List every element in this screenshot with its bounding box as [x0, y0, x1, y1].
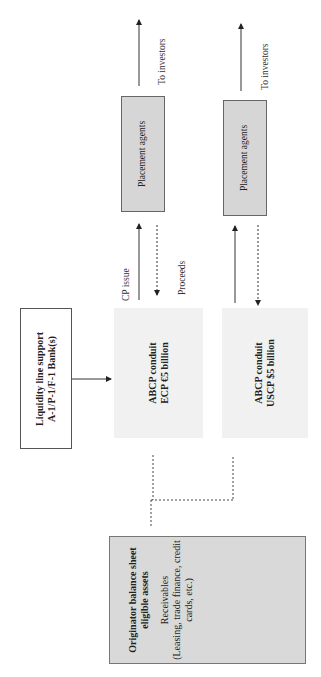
to-investors-label-2: To investors: [260, 43, 270, 90]
cp-issue-label: CP issue: [121, 268, 131, 301]
placement-agents-box-1: Placement agents: [121, 96, 165, 212]
abcp-conduit-uscp-text: ABCP conduit USCP $5 billion: [253, 339, 277, 407]
placement-agents-label-2: Placement agents: [239, 125, 250, 191]
liquidity-support-box: Liquidity line support A-1/P-1/F-1 Bank(…: [20, 308, 72, 449]
abcp-conduit-ecp-box: ABCP conduit ECP €5 billion: [114, 308, 203, 438]
abcp-conduit-uscp-box: ABCP conduit USCP $5 billion: [222, 308, 308, 438]
to-investors-label-1: To investors: [157, 38, 167, 85]
proceeds-label: Proceeds: [177, 261, 187, 295]
liquidity-support-text: Liquidity line support A-1/P-1/F-1 Bank(…: [34, 332, 58, 426]
placement-agents-label-1: Placement agents: [137, 121, 148, 187]
originator-assets-text: Originator balance sheet eligible assets…: [127, 540, 195, 660]
originator-assets-box: Originator balance sheet eligible assets…: [109, 536, 306, 664]
abcp-conduit-ecp-text: ABCP conduit ECP €5 billion: [147, 342, 171, 404]
placement-agents-box-2: Placement agents: [223, 100, 267, 216]
originator-dashed-connector: [151, 455, 233, 528]
